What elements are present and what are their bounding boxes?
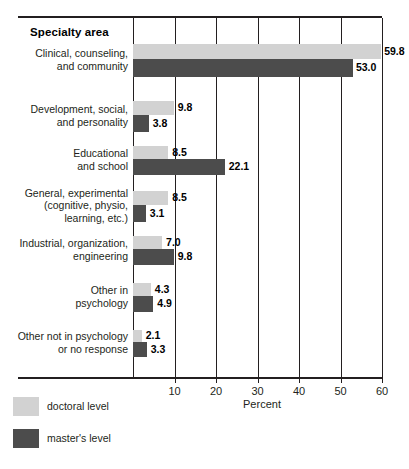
- bar-masters-1: [133, 115, 149, 132]
- category-label-line: Development, social,: [0, 103, 128, 116]
- bar-value-doctoral-5: 4.3: [155, 283, 170, 295]
- bar-doctoral-2: [133, 146, 168, 159]
- x-tick-10: [175, 377, 176, 383]
- category-label-line: and school: [0, 160, 128, 173]
- category-label-3: General, experimental(cognitive, physio,…: [0, 187, 128, 225]
- category-label-line: General, experimental: [0, 187, 128, 200]
- x-tick-label-50: 50: [321, 385, 361, 397]
- legend-swatch-masters: [13, 429, 39, 448]
- bar-value-doctoral-6: 2.1: [146, 329, 161, 341]
- category-label-line: Educational: [0, 147, 128, 160]
- bar-value-masters-5: 4.9: [157, 297, 172, 309]
- bar-value-masters-0: 53.0: [356, 61, 376, 73]
- x-axis-title: Percent: [222, 398, 302, 410]
- bar-doctoral-1: [133, 101, 174, 115]
- x-tick-20: [216, 377, 217, 383]
- x-tick-label-40: 40: [279, 385, 319, 397]
- bar-masters-4: [133, 249, 174, 265]
- chart-root: Specialty area 59.853.09.83.88.522.18.53…: [0, 0, 409, 469]
- x-tick-label-10: 10: [155, 385, 195, 397]
- bar-masters-2: [133, 159, 225, 175]
- bar-value-masters-2: 22.1: [229, 160, 249, 172]
- x-tick-60: [382, 377, 383, 383]
- category-label-line: Other in: [0, 284, 128, 297]
- gridline-60: [382, 18, 383, 377]
- category-label-line: and community: [0, 60, 128, 73]
- legend-swatch-doctoral: [13, 397, 39, 416]
- category-label-line: engineering: [0, 250, 128, 263]
- x-tick-label-20: 20: [196, 385, 236, 397]
- category-label-6: Other not in psychologyor no response: [0, 330, 128, 355]
- bar-value-doctoral-1: 9.8: [178, 101, 193, 113]
- bar-value-masters-1: 3.8: [153, 117, 168, 129]
- bar-value-doctoral-3: 8.5: [172, 191, 187, 203]
- bar-masters-6: [133, 342, 147, 357]
- bar-value-doctoral-4: 7.0: [166, 236, 181, 248]
- bar-value-doctoral-0: 59.8: [384, 45, 404, 57]
- bar-doctoral-4: [133, 236, 162, 249]
- category-label-4: Industrial, organization,engineering: [0, 237, 128, 262]
- bar-doctoral-3: [133, 191, 168, 205]
- bar-masters-0: [133, 59, 353, 77]
- bar-masters-5: [133, 296, 153, 312]
- category-label-line: or no response: [0, 343, 128, 356]
- plot-area: 59.853.09.83.88.522.18.53.17.09.84.34.92…: [133, 18, 382, 377]
- column-header-specialty-area: Specialty area: [30, 26, 109, 38]
- legend-label-doctoral: doctoral level: [47, 400, 109, 412]
- category-label-line: and personality: [0, 116, 128, 129]
- bar-doctoral-0: [133, 44, 381, 59]
- bar-doctoral-5: [133, 283, 151, 296]
- category-label-1: Development, social,and personality: [0, 103, 128, 128]
- bar-value-masters-4: 9.8: [178, 250, 193, 262]
- legend-label-masters: master's level: [47, 432, 111, 444]
- category-label-line: Clinical, counseling,: [0, 47, 128, 60]
- category-label-line: (cognitive, physio,: [0, 199, 128, 212]
- bar-value-masters-6: 3.3: [151, 343, 166, 355]
- category-label-line: learning, etc.): [0, 212, 128, 225]
- category-label-5: Other inpsychology: [0, 284, 128, 309]
- category-label-line: psychology: [0, 297, 128, 310]
- x-tick-40: [299, 377, 300, 383]
- category-label-line: Industrial, organization,: [0, 237, 128, 250]
- bar-value-masters-3: 3.1: [150, 207, 165, 219]
- bar-doctoral-6: [133, 330, 142, 342]
- bar-masters-3: [133, 205, 146, 222]
- x-tick-30: [258, 377, 259, 383]
- x-tick-label-30: 30: [238, 385, 278, 397]
- bar-value-doctoral-2: 8.5: [172, 146, 187, 158]
- x-tick-50: [341, 377, 342, 383]
- category-label-line: Other not in psychology: [0, 330, 128, 343]
- category-label-0: Clinical, counseling,and community: [0, 47, 128, 72]
- category-label-2: Educationaland school: [0, 147, 128, 172]
- x-tick-label-60: 60: [362, 385, 402, 397]
- bottom-axis-rule: [18, 377, 382, 379]
